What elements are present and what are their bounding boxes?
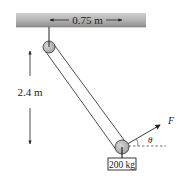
angle-reference: θ: [124, 135, 166, 146]
top-pulley: [43, 41, 55, 53]
width-dimension-label: 0.75 m: [72, 14, 103, 26]
height-dimension: 2.4 m: [17, 51, 43, 144]
pulley-diagram: 0.75 m 2.4 m F θ 200 kg: [0, 0, 184, 188]
force-label: F: [167, 115, 175, 126]
rope: [45, 44, 128, 151]
mass-label: 200 kg: [109, 160, 135, 170]
bottom-pulley: [115, 140, 129, 158]
angle-label: θ: [148, 135, 153, 145]
mass-block: 200 kg: [108, 158, 136, 170]
force-arrow-icon: [124, 125, 160, 146]
height-dimension-label: 2.4 m: [17, 86, 43, 98]
